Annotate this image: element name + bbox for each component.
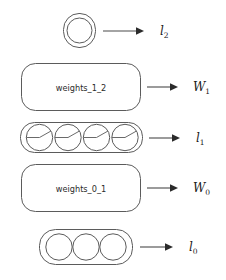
arrow-w0-head — [170, 184, 178, 192]
label-w1: W1 — [193, 80, 210, 96]
label-w1-sub: 1 — [205, 87, 210, 96]
arrow-l2-head — [136, 27, 144, 35]
arrow-l1-head — [172, 134, 180, 142]
label-w0: W0 — [193, 181, 210, 197]
network-diagram: l2 weights_1_2 W1 — [0, 0, 226, 280]
layer-l0-node-0 — [46, 234, 72, 260]
label-w0-sub: 0 — [205, 188, 210, 197]
layer-l1-node-2 — [83, 124, 109, 150]
layer-l1-node-1 — [55, 124, 81, 150]
arrow-l0-head — [165, 243, 173, 251]
label-l2: l2 — [160, 24, 169, 40]
diagram-canvas: l2 weights_1_2 W1 — [0, 0, 226, 280]
weights-1-2-box-label: weights_1_2 — [56, 83, 106, 93]
arrow-l1 — [149, 134, 180, 142]
label-l2-sub: 2 — [164, 31, 169, 40]
label-l1: l1 — [196, 131, 205, 147]
layer-l1-node-0 — [26, 124, 52, 150]
weights-0-1-group: weights_0_1 W0 — [22, 165, 211, 212]
layer-l0-group: l0 — [40, 230, 198, 265]
layer-l0-node-2 — [100, 234, 126, 260]
layer-l1-group: l1 — [21, 123, 205, 153]
layer-l2-group: l2 — [64, 14, 169, 48]
layer-l2-node-0 — [67, 18, 92, 43]
arrow-w1-head — [170, 83, 178, 91]
label-l0: l0 — [189, 240, 198, 256]
weights-1-2-group: weights_1_2 W1 — [22, 64, 211, 111]
layer-l1-node-3 — [112, 124, 138, 150]
arrow-w1 — [147, 83, 178, 91]
label-l0-sub: 0 — [193, 247, 198, 256]
label-l1-sub: 1 — [200, 138, 205, 147]
layer-l0-node-1 — [73, 234, 99, 260]
arrow-l2 — [103, 27, 144, 35]
weights-0-1-box-label: weights_0_1 — [56, 184, 106, 194]
arrow-w0 — [147, 184, 178, 192]
arrow-l0 — [140, 243, 173, 251]
